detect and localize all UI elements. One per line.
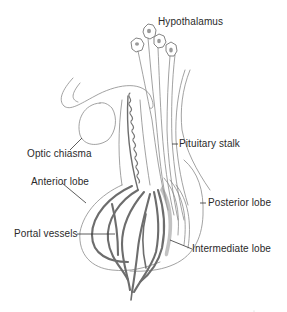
- speck: [253, 310, 254, 311]
- label-posterior-lobe: Posterior lobe: [208, 197, 271, 209]
- label-portal-vessels: Portal vessels: [14, 228, 78, 240]
- label-pituitary-stalk: Pituitary stalk: [179, 138, 240, 150]
- label-anterior-lobe: Anterior lobe: [31, 176, 89, 188]
- portal-vessels: [92, 186, 164, 300]
- label-hypothalamus: Hypothalamus: [158, 16, 223, 28]
- label-intermediate-lobe: Intermediate lobe: [192, 243, 271, 255]
- portal-coil: [119, 93, 150, 190]
- brain-outline: [61, 70, 210, 190]
- label-optic-chiasma: Optic chiasma: [27, 148, 92, 160]
